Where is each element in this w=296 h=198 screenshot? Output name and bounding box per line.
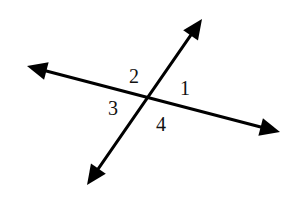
arrowhead-icon <box>87 163 106 185</box>
angle-label-1: 1 <box>180 77 190 99</box>
angle-label-2: 2 <box>129 65 139 87</box>
intersecting-lines-diagram: 1 2 3 4 <box>0 0 296 198</box>
angle-label-3: 3 <box>108 97 118 119</box>
line-a <box>42 70 264 128</box>
arrowhead-icon <box>27 62 49 79</box>
angle-labels: 1 2 3 4 <box>108 65 190 135</box>
lines-layer <box>27 19 280 185</box>
arrowhead-icon <box>183 19 202 41</box>
arrowhead-icon <box>258 118 280 135</box>
angle-label-4: 4 <box>156 113 166 135</box>
